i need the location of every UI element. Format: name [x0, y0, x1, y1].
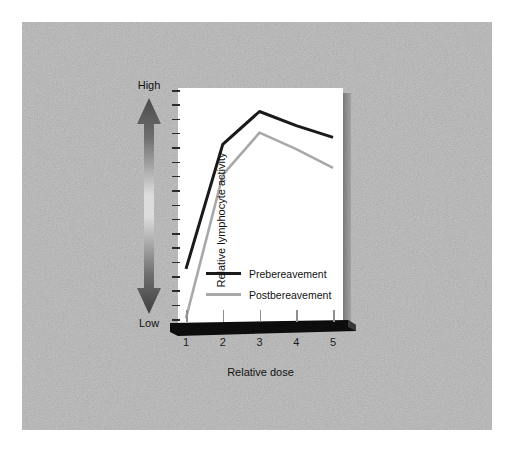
x-axis-tick-label: 1: [176, 336, 196, 348]
axis-label-high: High: [113, 79, 185, 91]
x-axis-tick: [186, 310, 188, 322]
y-axis-title-wrapper: Relative lymphocyte activity: [108, 96, 130, 316]
x-axis-tick-label: 5: [323, 336, 343, 348]
legend-label-postbereavement: Postbereavement: [249, 289, 331, 301]
x-axis-tick: [260, 310, 262, 322]
x-axis-tick: [333, 310, 335, 322]
x-axis-tick-label: 4: [286, 336, 306, 348]
line-prebereavement: [186, 112, 333, 269]
x-axis-tick-marks: [178, 310, 343, 322]
legend-label-prebereavement: Prebereavement: [249, 268, 327, 280]
x-axis-title: Relative dose: [178, 366, 343, 378]
x-axis-tick: [296, 310, 298, 322]
x-axis-baseline-slab: [170, 320, 356, 336]
y-axis-title: Relative lymphocyte activity: [215, 110, 227, 330]
double-headed-vertical-arrow-icon: [136, 98, 162, 314]
x-axis-tick-label: 3: [250, 336, 270, 348]
plot-panel-shadow: [343, 93, 351, 328]
axis-label-low: Low: [113, 317, 185, 329]
x-axis-tick-label: 2: [213, 336, 233, 348]
x-axis-tick-labels: 12345: [168, 336, 358, 352]
